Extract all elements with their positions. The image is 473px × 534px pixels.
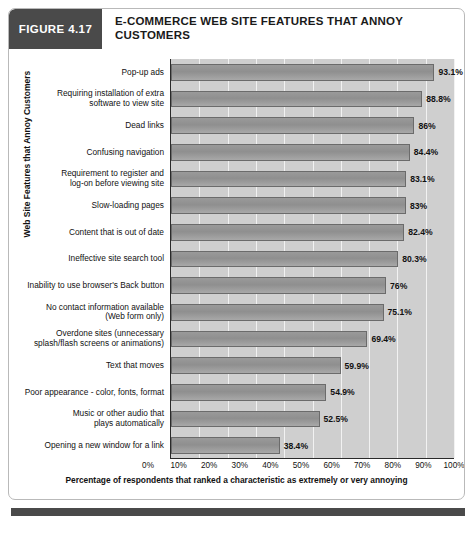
x-tick-label: 100% <box>444 461 465 470</box>
x-tick-label: 80% <box>385 461 401 470</box>
bar <box>171 91 422 108</box>
figure-header: FIGURE 4.17 E-COMMERCE WEB SITE FEATURES… <box>9 9 464 49</box>
bar <box>171 251 398 268</box>
bar <box>171 384 326 401</box>
bar <box>171 304 384 321</box>
x-tick-label: 10% <box>170 461 186 470</box>
category-label: Confusing navigation <box>24 148 164 158</box>
bar-value-label: 59.9% <box>345 361 369 371</box>
bar <box>171 224 404 241</box>
bar-value-label: 75.1% <box>388 307 412 317</box>
bar <box>171 64 434 81</box>
bar <box>171 411 320 428</box>
category-label: No contact information available(Web for… <box>24 303 164 322</box>
plot-row: Pop-up adsRequiring installation of extr… <box>31 59 454 459</box>
figure-panel: FIGURE 4.17 E-COMMERCE WEB SITE FEATURES… <box>8 8 465 500</box>
category-label: Requirement to register andlog-on before… <box>24 169 164 188</box>
bar-value-label: 82.4% <box>408 227 432 237</box>
bar-row: 38.4% <box>171 437 454 454</box>
x-tick-label: 70% <box>354 461 370 470</box>
plot-area: 93.1%88.8%86%84.4%83.1%83%82.4%80.3%76%7… <box>170 59 454 459</box>
bar <box>171 171 406 188</box>
bar-value-label: 83.1% <box>410 174 434 184</box>
bar-value-label: 86% <box>418 121 435 131</box>
bar <box>171 144 410 161</box>
category-label: Inability to use browser's Back button <box>24 281 164 291</box>
bar-value-label: 93.1% <box>438 67 462 77</box>
bar-row: 82.4% <box>171 224 454 241</box>
bar-row: 76% <box>171 277 454 294</box>
figure-bottom-rule <box>11 508 465 516</box>
category-label: Content that is out of date <box>24 228 164 238</box>
x-tick-label: 60% <box>323 461 339 470</box>
bar-row: 69.4% <box>171 331 454 348</box>
bar <box>171 197 406 214</box>
bar-row: 86% <box>171 117 454 134</box>
bar <box>171 357 341 374</box>
category-label: Overdone sites (unnecessarysplash/flash … <box>24 329 164 348</box>
bar <box>171 331 367 348</box>
bar-value-label: 52.5% <box>324 414 348 424</box>
bar-row: 93.1% <box>171 64 454 81</box>
x-tick-label: 30% <box>232 461 248 470</box>
bar-row: 83% <box>171 197 454 214</box>
bar-row: 88.8% <box>171 91 454 108</box>
category-label: Pop-up ads <box>24 68 164 78</box>
category-label: Ineffective site search tool <box>24 254 164 264</box>
chart-container: Web Site Features that Annoy Customers P… <box>9 49 464 499</box>
bar <box>171 117 414 134</box>
bar <box>171 277 386 294</box>
bar-value-label: 69.4% <box>371 334 395 344</box>
category-label: Opening a new window for a link <box>24 441 164 451</box>
bar-row: 54.9% <box>171 384 454 401</box>
bar-row: 80.3% <box>171 251 454 268</box>
category-axis-labels: Pop-up adsRequiring installation of extr… <box>31 59 168 459</box>
x-axis-ticks: 0%10%20%30%40%50%60%70%80%90%100% <box>148 461 454 473</box>
bar-row: 59.9% <box>171 357 454 374</box>
x-tick-label: 0% <box>142 461 154 470</box>
x-tick-label: 20% <box>201 461 217 470</box>
gridline <box>454 59 455 458</box>
bar-value-label: 80.3% <box>402 254 426 264</box>
figure-number-badge: FIGURE 4.17 <box>9 9 102 49</box>
bar-row: 83.1% <box>171 171 454 188</box>
bar-value-label: 88.8% <box>426 94 450 104</box>
bar-value-label: 38.4% <box>284 441 308 451</box>
category-label: Music or other audio thatplays automatic… <box>24 409 164 428</box>
category-label: Slow-loading pages <box>24 201 164 211</box>
category-label: Requiring installation of extrasoftware … <box>24 89 164 108</box>
bar-value-label: 76% <box>390 281 407 291</box>
x-tick-label: 90% <box>415 461 431 470</box>
x-tick-label: 50% <box>293 461 309 470</box>
figure-title: E-COMMERCE WEB SITE FEATURES THAT ANNOY … <box>102 9 464 49</box>
bar-row: 52.5% <box>171 411 454 428</box>
bar-row: 84.4% <box>171 144 454 161</box>
x-tick-label: 40% <box>262 461 278 470</box>
bar-value-label: 83% <box>410 201 427 211</box>
bar <box>171 437 280 454</box>
category-label: Dead links <box>24 121 164 131</box>
x-axis-title: Percentage of respondents that ranked a … <box>9 475 464 485</box>
category-label: Poor appearance - color, fonts, format <box>24 388 164 398</box>
bar-row: 75.1% <box>171 304 454 321</box>
bar-value-label: 54.9% <box>330 387 354 397</box>
category-label: Text that moves <box>24 361 164 371</box>
bar-value-label: 84.4% <box>414 147 438 157</box>
